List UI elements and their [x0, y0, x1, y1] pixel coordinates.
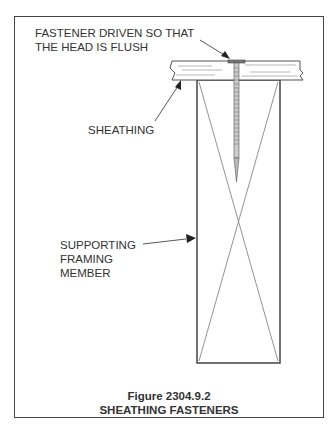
framing-label-line-1: SUPPORTING [60, 238, 136, 252]
fastener-label: FASTENER DRIVEN SO THAT THE HEAD IS FLUS… [35, 26, 194, 54]
framing-label-line-2: FRAMING [60, 252, 136, 266]
fastener-label-line-2: THE HEAD IS FLUSH [35, 40, 194, 54]
figure-title: SHEATHING FASTENERS [14, 403, 324, 417]
fastener-leader-arrow [200, 40, 230, 59]
framing-label-line-3: MEMBER [60, 266, 136, 280]
diagram-drawing [0, 0, 334, 433]
framing-member-label: SUPPORTING FRAMING MEMBER [60, 238, 136, 280]
sheathing-leader-arrow [155, 80, 181, 121]
framing-leader-arrow [143, 234, 196, 244]
figure-number: Figure 2304.9.2 [14, 389, 324, 403]
fastener-label-line-1: FASTENER DRIVEN SO THAT [35, 26, 194, 40]
sheathing-label: SHEATHING [88, 123, 154, 137]
